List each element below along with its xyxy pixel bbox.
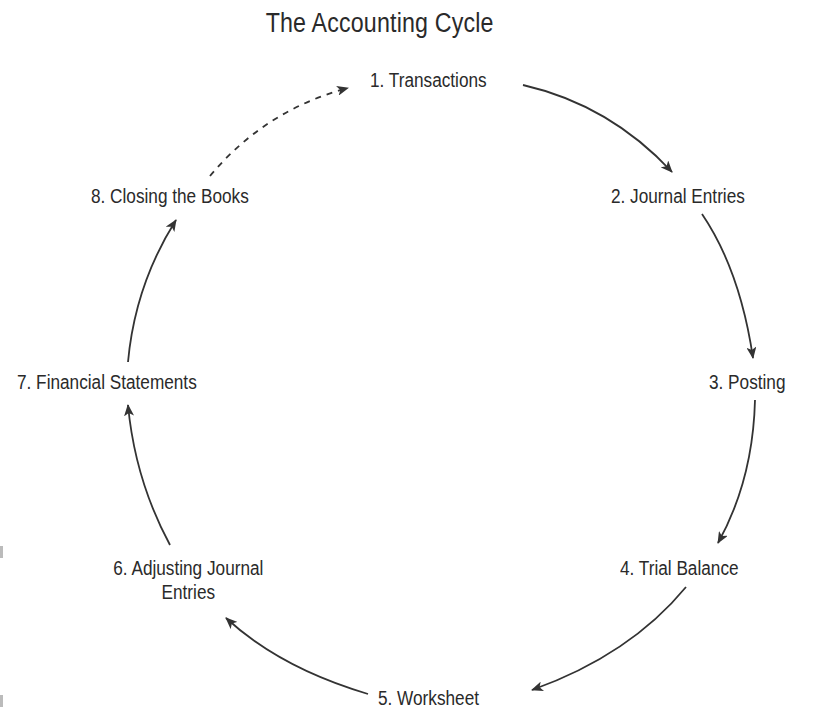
margin-mark bbox=[0, 695, 3, 707]
arrow-3-to-4 bbox=[718, 400, 755, 543]
arrow-4-to-5 bbox=[532, 587, 686, 690]
arrow-1-to-2 bbox=[523, 85, 672, 172]
margin-mark bbox=[0, 546, 3, 558]
arrow-2-to-3 bbox=[702, 214, 753, 358]
arrow-5-to-6 bbox=[226, 618, 368, 694]
arrow-6-to-7 bbox=[128, 405, 170, 545]
cycle-arrows bbox=[0, 0, 815, 720]
arrow-8-to-1 bbox=[210, 88, 348, 176]
arrow-7-to-8 bbox=[128, 220, 176, 362]
